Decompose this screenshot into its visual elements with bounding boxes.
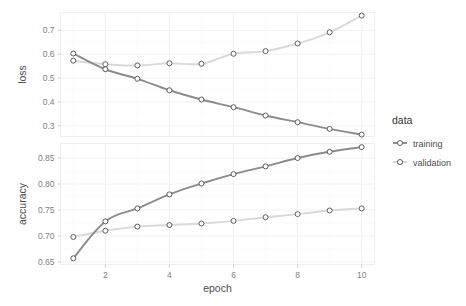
legend: datatrainingvalidation <box>390 114 462 169</box>
point-loss-validation-epoch-9 <box>327 30 332 35</box>
point-accuracy-validation-epoch-4 <box>167 223 172 228</box>
ytick-label-loss-0.5: 0.5 <box>43 73 55 83</box>
point-loss-validation-epoch-4 <box>167 61 172 66</box>
point-accuracy-validation-epoch-10 <box>359 206 364 211</box>
point-loss-validation-epoch-6 <box>231 51 236 56</box>
legend-title: data <box>392 114 413 126</box>
ytick-label-loss-0.7: 0.7 <box>43 25 55 35</box>
point-accuracy-training-epoch-9 <box>327 149 332 154</box>
point-accuracy-training-epoch-5 <box>199 181 204 186</box>
point-accuracy-validation-epoch-9 <box>327 208 332 213</box>
point-accuracy-training-epoch-6 <box>231 172 236 177</box>
point-loss-validation-epoch-7 <box>263 49 268 54</box>
point-loss-validation-epoch-8 <box>295 41 300 46</box>
point-loss-validation-epoch-1 <box>71 58 76 63</box>
point-accuracy-validation-epoch-5 <box>199 221 204 226</box>
point-loss-training-epoch-4 <box>167 88 172 93</box>
point-loss-training-epoch-8 <box>295 120 300 125</box>
xtick-label-2: 2 <box>103 270 108 280</box>
ytick-label-accuracy-0.80: 0.80 <box>38 179 55 189</box>
chart-canvas: 0.30.40.50.60.7loss0.650.700.750.800.85a… <box>0 0 466 306</box>
point-accuracy-validation-epoch-7 <box>263 215 268 220</box>
ytick-label-accuracy-0.85: 0.85 <box>38 153 55 163</box>
point-loss-training-epoch-9 <box>327 126 332 131</box>
point-loss-validation-epoch-5 <box>199 61 204 66</box>
ytick-label-loss-0.3: 0.3 <box>43 121 55 131</box>
point-loss-validation-epoch-2 <box>103 62 108 67</box>
panel-background-accuracy <box>61 144 375 265</box>
point-accuracy-training-epoch-8 <box>295 156 300 161</box>
legend-label-validation: validation <box>413 158 451 168</box>
facet-panel-loss: 0.30.40.50.60.7loss <box>16 13 375 138</box>
point-accuracy-training-epoch-3 <box>135 206 140 211</box>
facet-panel-accuracy: 0.650.700.750.800.85accuracy <box>16 144 375 267</box>
point-loss-training-epoch-10 <box>359 132 364 137</box>
xtick-label-8: 8 <box>295 270 300 280</box>
point-loss-training-epoch-1 <box>71 51 76 56</box>
legend-item-training[interactable]: training <box>390 134 462 150</box>
point-loss-training-epoch-3 <box>135 76 140 81</box>
point-loss-training-epoch-7 <box>263 113 268 118</box>
legend-key-point-training <box>398 141 403 146</box>
xtick-label-6: 6 <box>231 270 236 280</box>
legend-key-point-validation <box>398 160 403 165</box>
point-loss-training-epoch-5 <box>199 97 204 102</box>
ytick-label-loss-0.6: 0.6 <box>43 49 55 59</box>
ytick-label-accuracy-0.65: 0.65 <box>38 257 55 267</box>
point-loss-training-epoch-2 <box>103 67 108 72</box>
point-loss-validation-epoch-3 <box>135 63 140 68</box>
training-history-chart: 0.30.40.50.60.7loss0.650.700.750.800.85a… <box>0 0 466 306</box>
point-accuracy-validation-epoch-1 <box>71 234 76 239</box>
legend-label-training: training <box>413 139 443 149</box>
xtick-label-4: 4 <box>167 270 172 280</box>
axis-title-loss: loss <box>16 65 28 84</box>
xtick-label-10: 10 <box>357 270 367 280</box>
ytick-label-loss-0.4: 0.4 <box>43 97 55 107</box>
point-accuracy-validation-epoch-2 <box>103 228 108 233</box>
point-accuracy-validation-epoch-3 <box>135 224 140 229</box>
ytick-label-accuracy-0.75: 0.75 <box>38 205 55 215</box>
point-accuracy-training-epoch-4 <box>167 192 172 197</box>
legend-item-validation[interactable]: validation <box>390 153 462 169</box>
point-accuracy-training-epoch-1 <box>71 256 76 261</box>
axis-title-epoch: epoch <box>203 282 232 294</box>
point-accuracy-training-epoch-7 <box>263 164 268 169</box>
axis-title-accuracy: accuracy <box>16 182 28 225</box>
point-accuracy-training-epoch-2 <box>103 219 108 224</box>
point-loss-validation-epoch-10 <box>359 13 364 18</box>
point-accuracy-validation-epoch-6 <box>231 218 236 223</box>
x-axis: 246810epoch <box>103 265 367 294</box>
point-accuracy-validation-epoch-8 <box>295 212 300 217</box>
point-loss-training-epoch-6 <box>231 105 236 110</box>
point-accuracy-training-epoch-10 <box>359 145 364 150</box>
ytick-label-accuracy-0.70: 0.70 <box>38 231 55 241</box>
